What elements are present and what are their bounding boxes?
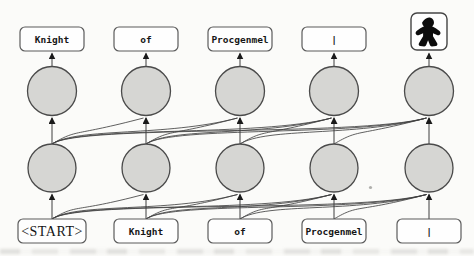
edge-hidden-3-4 [334,118,427,144]
output-token-2: Procgenmel [211,34,268,45]
output-token-3: | [331,34,337,45]
output-token-1: of [140,34,152,45]
hidden-node-bottom-1 [122,144,170,192]
hidden-node-top-2 [216,67,265,116]
input-token-0: <START> [21,224,83,239]
hidden-node-bottom-2 [216,144,264,192]
hidden-node-bottom-3 [310,144,358,192]
hidden-node-top-3 [310,67,359,116]
sequence-model-diagram: Knight of Procgenmel | <START> Knight of… [0,0,474,256]
hidden-node-top-0 [28,67,77,116]
hidden-node-bottom-4 [405,144,453,192]
input-token-3: Procgenmel [305,226,362,237]
output-token-row: Knight of Procgenmel | [20,13,447,51]
edge-hidden-0-1 [52,118,144,144]
edge-input-0-1 [52,195,144,220]
hidden-node-top-1 [122,67,171,116]
output-token-0: Knight [35,34,69,45]
figure-canvas: Knight of Procgenmel | <START> Knight of… [0,0,474,256]
print-speck [369,186,372,189]
input-token-row: <START> Knight of Procgenmel | [18,219,461,243]
input-token-2: of [234,226,246,237]
edge-input-3-4 [334,195,427,220]
hidden-node-bottom-0 [28,144,76,192]
hidden-node-top-4 [405,67,454,116]
input-token-1: Knight [129,226,163,237]
input-token-4: | [426,226,432,237]
